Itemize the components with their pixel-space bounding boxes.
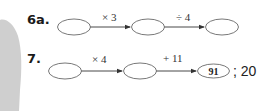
- worksheet-page: 6a. × 3 ÷ 4 7. × 4 + 11 ; 20 91: [0, 0, 266, 111]
- problem-7-box-3-value: 91: [209, 66, 219, 77]
- problem-6a-diagram: [58, 19, 239, 35]
- problem-6a-box-2[interactable]: [132, 19, 165, 35]
- problem-7-box-1[interactable]: [49, 63, 82, 79]
- problem-6a-box-3[interactable]: [206, 19, 239, 35]
- problem-6a-box-1[interactable]: [58, 19, 91, 35]
- flow-diagrams: 91: [0, 0, 266, 111]
- problem-7-diagram: 91: [49, 63, 230, 79]
- problem-7-box-2[interactable]: [124, 63, 157, 79]
